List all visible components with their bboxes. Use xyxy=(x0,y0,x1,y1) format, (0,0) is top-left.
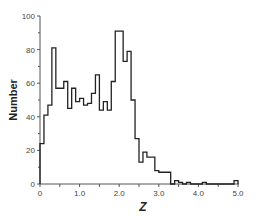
x-tick-label: 2.0 xyxy=(114,189,126,198)
x-tick-label: 5.0 xyxy=(232,189,244,198)
y-tick-label: 60 xyxy=(26,79,35,88)
y-tick-label: 40 xyxy=(26,113,35,122)
histogram-outline xyxy=(40,31,238,184)
x-tick-label: 1.0 xyxy=(74,189,86,198)
x-tick-label: 3.0 xyxy=(153,189,165,198)
y-tick-label: 20 xyxy=(26,146,35,155)
x-tick-label: 0 xyxy=(38,189,43,198)
x-axis-label: Z xyxy=(138,200,147,214)
x-tick-label: 4.0 xyxy=(193,189,205,198)
y-axis-label: Number xyxy=(7,79,19,121)
y-tick-label: 80 xyxy=(26,46,35,55)
y-tick-label: 0 xyxy=(31,180,36,189)
histogram-chart: 02040608010001.02.03.04.05.0 Z Number xyxy=(0,0,266,219)
tick-labels: 02040608010001.02.03.04.05.0 xyxy=(22,12,244,198)
y-tick-label: 100 xyxy=(22,12,36,21)
